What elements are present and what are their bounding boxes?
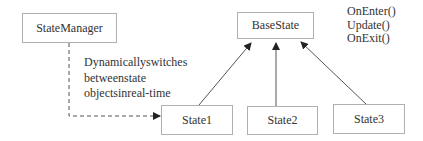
method-update: Update() bbox=[347, 19, 396, 33]
base-state-node: BaseState bbox=[237, 12, 314, 39]
annotation-line-1: Dynamicallyswitches bbox=[84, 55, 187, 71]
state-manager-label: StateManager bbox=[36, 21, 103, 36]
method-on-exit: OnExit() bbox=[347, 32, 396, 46]
annotation-line-3: objectsinreal-time bbox=[84, 86, 187, 102]
state1-node: State1 bbox=[161, 105, 233, 135]
switch-annotation: Dynamicallyswitches betweenstate objects… bbox=[84, 55, 187, 102]
annotation-line-2: betweenstate bbox=[84, 71, 187, 87]
base-state-methods: OnEnter() Update() OnExit() bbox=[347, 5, 396, 46]
state2-node: State2 bbox=[247, 106, 318, 135]
state2-label: State2 bbox=[268, 113, 298, 128]
method-on-enter: OnEnter() bbox=[347, 5, 396, 19]
state3-node: State3 bbox=[333, 104, 405, 134]
inheritance-arrow-state3 bbox=[301, 42, 366, 104]
base-state-label: BaseState bbox=[252, 18, 299, 33]
inheritance-arrow-state1 bbox=[199, 43, 251, 105]
state-manager-node: StateManager bbox=[22, 13, 117, 43]
state3-label: State3 bbox=[354, 112, 384, 127]
state1-label: State1 bbox=[182, 113, 212, 128]
